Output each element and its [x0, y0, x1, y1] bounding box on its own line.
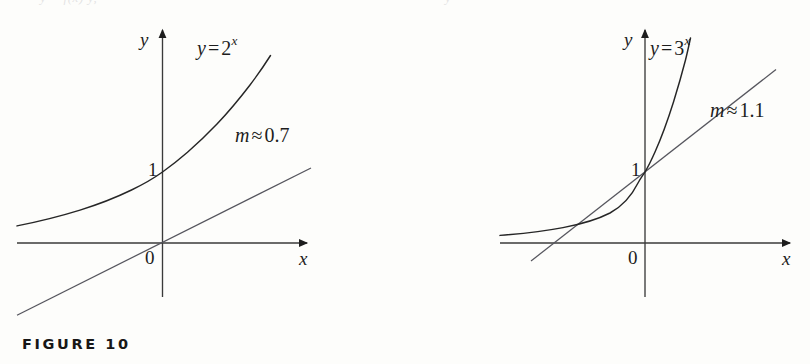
figure-page: y = f(x) y, y y x: [0, 0, 810, 364]
tangent-line-series: [17, 168, 311, 315]
exponential-curve-series: [17, 56, 271, 226]
curve-equation-lhs: y: [197, 37, 206, 59]
curve-equation-equals: =: [206, 37, 221, 59]
curve-equation-equals: =: [659, 37, 674, 59]
curve-equation-lhs: y: [650, 37, 659, 59]
slope-annotation-label: m≈0.7: [235, 125, 289, 145]
origin-label: 0: [145, 248, 155, 267]
figure-10-panel: y x 0 1 y=2x m≈0.7 FIGURE 10: [0, 0, 405, 364]
origin-label: 0: [628, 248, 638, 267]
slope-relation: ≈: [724, 99, 739, 121]
curve-equation-label: y=2x: [197, 36, 237, 58]
slope-variable: m: [710, 99, 724, 121]
y-intercept-tick-label: 1: [631, 160, 641, 179]
curve-equation-label: y=3x: [650, 36, 690, 58]
x-axis-label: x: [299, 249, 307, 268]
figure-10-caption: FIGURE 10: [22, 336, 131, 352]
slope-relation: ≈: [249, 124, 264, 146]
y-intercept-tick-label: 1: [148, 160, 158, 179]
curve-equation-exponent: x: [232, 33, 238, 48]
slope-value: 0.7: [264, 124, 289, 146]
y-axis-label: y: [140, 30, 148, 49]
slope-value: 1.1: [739, 99, 764, 121]
curve-equation-base: 2: [221, 37, 231, 59]
x-axis-label: x: [782, 249, 790, 268]
curve-equation-base: 3: [674, 37, 684, 59]
figure-11-panel: y x 0 1 y=3x m≈1.1 FIGURE 11: [405, 0, 810, 364]
curve-equation-exponent: x: [685, 33, 691, 48]
figure-11-plot: [405, 0, 810, 330]
slope-variable: m: [235, 124, 249, 146]
y-axis-label: y: [624, 30, 632, 49]
slope-annotation-label: m≈1.1: [710, 100, 764, 120]
exponential-curve-series: [500, 38, 691, 235]
